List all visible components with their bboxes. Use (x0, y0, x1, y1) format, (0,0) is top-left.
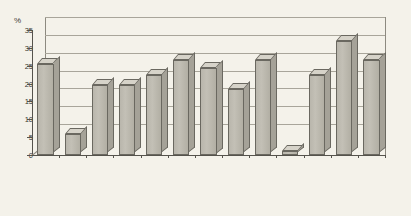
bar-sudan[interactable] (282, 151, 298, 155)
x-axis-tick-mark (249, 155, 250, 158)
bar-libya[interactable] (228, 89, 244, 155)
bar-front-face (119, 85, 135, 155)
bars-layer (0, 0, 411, 216)
y-axis-tick-mark (27, 137, 32, 138)
y-axis-tick-mark (27, 84, 32, 85)
bar-side-face (325, 67, 331, 152)
x-axis-tick-mark (385, 155, 386, 158)
x-axis-tick-mark (304, 155, 305, 158)
bar-front-face (146, 75, 162, 155)
bar-front-face (282, 151, 298, 155)
x-axis-tick-mark (59, 155, 60, 158)
bar-side-face (135, 78, 141, 152)
bar-morocco[interactable] (255, 60, 271, 155)
bar-algeria[interactable] (37, 64, 53, 155)
bar-front-face (309, 75, 325, 155)
bar-front-face (200, 68, 216, 156)
x-axis-tick-mark (86, 155, 87, 158)
bar-front-face (228, 89, 244, 155)
bar-tunisia[interactable] (336, 41, 352, 155)
y-axis-tick-mark (27, 101, 32, 102)
y-axis-tick-mark (27, 48, 32, 49)
x-axis-tick-mark (113, 155, 114, 158)
bar-front-face (92, 85, 108, 155)
y-axis-tick-mark (27, 155, 32, 156)
bar-front-face (336, 41, 352, 155)
bar-side-face (189, 53, 195, 152)
bar-iran[interactable] (92, 85, 108, 155)
x-axis-tick-mark (358, 155, 359, 158)
bar-lebanon[interactable] (200, 68, 216, 156)
bar-syria[interactable] (309, 75, 325, 155)
bar-front-face (363, 60, 379, 155)
bar-side-face (217, 60, 223, 152)
y-axis-tick-mark (27, 30, 32, 31)
bar-side-face (162, 67, 168, 152)
bar-front-face (65, 134, 81, 155)
bar-kuwait[interactable] (173, 60, 189, 155)
bar-side-face (271, 53, 277, 152)
x-axis-tick-mark (276, 155, 277, 158)
bar-front-face (37, 64, 53, 155)
bar-side-face (352, 33, 358, 152)
bar-front-face (173, 60, 189, 155)
y-axis-tick-mark (27, 66, 32, 67)
x-axis-tick-mark (168, 155, 169, 158)
y-axis-tick-mark (27, 119, 32, 120)
bar-israel[interactable] (146, 75, 162, 155)
bar-side-face (54, 56, 60, 152)
bar-front-face (255, 60, 271, 155)
bar-side-face (380, 53, 386, 152)
bar-side-face (108, 78, 114, 152)
bar-yemen[interactable] (363, 60, 379, 155)
bar-top-face (282, 145, 303, 151)
bar-chart: % 05101520253035 AlgeriaEgyptIranIraqIsr… (0, 0, 411, 216)
x-axis-tick-mark (331, 155, 332, 158)
bar-egypt[interactable] (65, 134, 81, 155)
x-axis-tick-mark (141, 155, 142, 158)
bar-iraq[interactable] (119, 85, 135, 155)
x-axis-tick-mark (195, 155, 196, 158)
bar-side-face (244, 81, 250, 152)
x-axis-tick-mark (222, 155, 223, 158)
